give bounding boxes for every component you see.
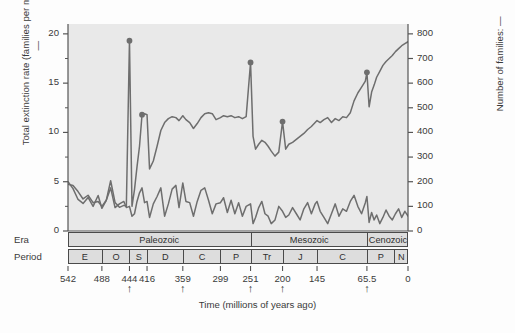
x-tick-0: 0 — [388, 273, 428, 284]
mass-extinction-arrow-444: ↑ — [123, 283, 135, 294]
extinction-rate-figure: Total extinction rate (families per mill… — [0, 0, 515, 333]
y-tick-right-500: 500 — [417, 101, 449, 112]
y-tick-right-100: 100 — [417, 199, 449, 210]
period-cell-o: O — [102, 249, 130, 264]
plot-area — [68, 24, 408, 231]
y-tick-left-10: 10 — [33, 125, 59, 136]
mass-extinction-arrow-359: ↑ — [177, 283, 189, 294]
era-cell-mesozoic: Mesozoic — [251, 232, 367, 247]
mass-extinction-arrow-200: ↑ — [277, 283, 289, 294]
period-row-label: Period — [14, 251, 42, 262]
y-axis-right-title: Number of families: — — [494, 0, 506, 164]
period-cell-d: D — [147, 249, 183, 264]
y-tick-right-200: 200 — [417, 175, 449, 186]
series-line-1 — [68, 183, 408, 224]
period-cell-s: S — [129, 249, 147, 264]
y-tick-right-400: 400 — [417, 125, 449, 136]
series-line-0 — [68, 41, 408, 209]
period-cell-j: J — [283, 249, 318, 264]
extinction-peak-marker-0 — [127, 38, 133, 44]
y-axis-left-title: Total extinction rate (families per mill… — [20, 0, 43, 146]
y-tick-left-5: 5 — [33, 175, 59, 186]
y-tick-left-20: 20 — [33, 27, 59, 38]
period-cell-c: C — [183, 249, 221, 264]
extinction-peak-marker-2 — [248, 60, 254, 66]
y-tick-right-300: 300 — [417, 150, 449, 161]
x-tick-145: 145 — [297, 273, 337, 284]
era-cell-cenozoic: Cenozoic — [367, 232, 408, 247]
mass-extinction-arrow-65.5: ↑ — [361, 283, 373, 294]
period-cell-p: P — [220, 249, 250, 264]
extinction-peak-marker-3 — [280, 119, 286, 125]
period-cell-c: C — [317, 249, 367, 264]
y-tick-right-0: 0 — [417, 224, 449, 235]
mass-extinction-arrow-251: ↑ — [245, 283, 257, 294]
y-tick-right-800: 800 — [417, 27, 449, 38]
period-cell-p: P — [367, 249, 394, 264]
extinction-peak-marker-1 — [139, 112, 145, 118]
y-tick-right-700: 700 — [417, 52, 449, 63]
chart-canvas — [68, 24, 408, 231]
era-row-label: Era — [14, 234, 29, 245]
y-tick-right-600: 600 — [417, 76, 449, 87]
period-cell-e: E — [68, 249, 102, 264]
period-cell-tr: Tr — [251, 249, 283, 264]
y-tick-left-0: 0 — [33, 224, 59, 235]
y-tick-left-15: 15 — [33, 76, 59, 87]
era-cell-paleozoic: Paleozoic — [68, 232, 251, 247]
x-axis-title: Time (millions of years ago) — [0, 299, 515, 310]
extinction-peak-marker-4 — [364, 69, 370, 75]
period-cell-n: N — [394, 249, 408, 264]
